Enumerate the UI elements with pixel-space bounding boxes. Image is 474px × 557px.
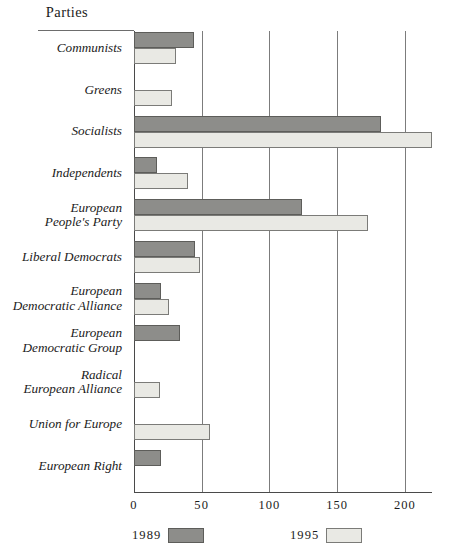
x-tick-100: 100: [247, 498, 291, 513]
x-axis-line: [134, 492, 432, 493]
bar-1995-row-4: [134, 215, 368, 231]
legend-item-1995: 1995: [290, 528, 362, 543]
legend-swatch-1995: [326, 528, 362, 543]
bar-1989-row-6: [134, 283, 161, 299]
gridline-150: [337, 31, 338, 492]
bar-1995-row-6: [134, 299, 169, 315]
bar-1995-row-0: [134, 48, 176, 64]
bar-1989-row-0: [134, 32, 194, 48]
header-divider: [38, 30, 134, 31]
bar-1989-row-4: [134, 199, 302, 215]
bar-1995-row-5: [134, 257, 200, 273]
x-tick-200: 200: [383, 498, 427, 513]
bar-1995-row-8: [134, 382, 160, 398]
category-label-9: Union for Europe: [0, 417, 128, 432]
category-label-4: European People's Party: [0, 201, 128, 230]
bar-1995-row-2: [134, 132, 432, 148]
axis-header-parties: Parties: [0, 4, 134, 21]
bar-chart: Parties CommunistsGreensSocialistsIndepe…: [0, 0, 474, 557]
bar-1995-row-1: [134, 90, 172, 106]
legend-swatch-1989: [168, 528, 204, 543]
category-label-10: European Right: [0, 459, 128, 474]
bar-1989-row-3: [134, 157, 157, 173]
category-label-5: Liberal Democrats: [0, 250, 128, 265]
legend-label-1995: 1995: [290, 528, 319, 543]
category-label-0: Communists: [0, 41, 128, 56]
legend-label-1989: 1989: [132, 528, 161, 543]
bar-1995-row-3: [134, 173, 188, 189]
gridline-50: [202, 31, 203, 492]
gridline-200: [405, 31, 406, 492]
category-label-3: Independents: [0, 166, 128, 181]
bar-1989-row-2: [134, 116, 381, 132]
x-tick-150: 150: [315, 498, 359, 513]
x-tick-50: 50: [180, 498, 224, 513]
bar-1989-row-5: [134, 241, 195, 257]
x-tick-0: 0: [112, 498, 156, 513]
category-label-1: Greens: [0, 83, 128, 98]
category-label-8: Radical European Alliance: [0, 368, 128, 397]
category-label-6: European Democratic Alliance: [0, 284, 128, 313]
bar-1995-row-9: [134, 424, 210, 440]
category-label-2: Socialists: [0, 124, 128, 139]
category-label-7: European Democratic Group: [0, 326, 128, 355]
bar-1989-row-10: [134, 450, 161, 466]
gridline-100: [269, 31, 270, 492]
bar-1989-row-7: [134, 325, 180, 341]
legend-item-1989: 1989: [132, 528, 204, 543]
